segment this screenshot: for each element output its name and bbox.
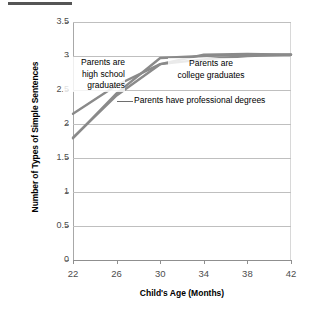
annotation-leader-line [117, 101, 133, 102]
annotation-college-graduates: Parents arecollege graduates [168, 58, 254, 81]
x-tick-label: 34 [189, 268, 219, 279]
annotation-line: graduates [63, 80, 125, 92]
annotation-line: Parents are [63, 57, 125, 69]
y-tick-label: 0.5 [33, 220, 69, 230]
y-tick-label: 2 [33, 118, 69, 128]
x-axis-tick-labels: 222630343842 [73, 260, 291, 280]
y-tick-label: 1.5 [33, 152, 69, 162]
x-tick-label: 38 [232, 268, 262, 279]
annotation-line: Parents are [168, 58, 254, 70]
annotation-line: Parents have professional degrees [134, 95, 289, 107]
y-tick-label: 1 [33, 186, 69, 196]
annotation-line: high school [63, 69, 125, 81]
x-tick-label: 30 [145, 268, 175, 279]
y-tick-label: 3.5 [33, 16, 69, 26]
chart-figure: Number of Types of Simple Sentences 3.53… [0, 0, 325, 310]
y-tick-label: 0 [33, 254, 69, 264]
annotation-line: college graduates [168, 70, 254, 82]
annotation-professional-degrees: Parents have professional degrees [134, 95, 289, 107]
annotation-high-school-graduates: Parents arehigh schoolgraduates [63, 57, 125, 92]
x-axis-title: Child's Age (Months) [73, 288, 291, 298]
x-tick-label: 42 [276, 268, 306, 279]
x-tick-label: 22 [58, 268, 88, 279]
title-underline-rule [8, 2, 72, 5]
x-tick-label: 26 [102, 268, 132, 279]
x-tick-mark [291, 260, 292, 264]
